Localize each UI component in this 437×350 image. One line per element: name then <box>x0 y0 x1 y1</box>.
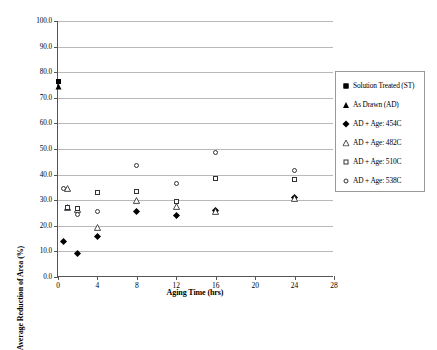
data-point <box>133 188 140 195</box>
marker-square-open-icon <box>134 189 139 194</box>
y-axis-tick-label: 10.0 <box>40 247 52 255</box>
y-axis-tick <box>54 98 58 99</box>
y-axis-tick <box>54 123 58 124</box>
y-axis-tick-label: 80.0 <box>40 68 52 76</box>
x-axis-tick <box>334 276 335 280</box>
y-axis-tick-label: 100.0 <box>36 17 52 25</box>
x-axis-tick <box>137 276 138 280</box>
marker-triangle-open-icon <box>212 208 219 215</box>
legend-item[interactable]: AD + Age: 454C <box>336 114 424 133</box>
data-point <box>60 238 67 245</box>
marker-triangle-open-icon <box>94 224 101 231</box>
gridline <box>58 251 333 252</box>
data-point <box>60 185 67 192</box>
legend-label: Solution Treated (ST) <box>353 81 414 90</box>
y-axis-tick <box>54 226 58 227</box>
x-axis-tick <box>176 276 177 280</box>
x-axis-tick <box>216 276 217 280</box>
legend-marker-circle-open-icon <box>341 176 350 185</box>
data-point <box>173 198 180 205</box>
gridline <box>58 98 333 99</box>
data-point <box>94 208 101 215</box>
marker-diamond-filled-icon <box>94 233 101 240</box>
data-point <box>212 175 219 182</box>
marker-circle-open-icon <box>134 163 139 168</box>
marker-diamond-filled-icon <box>173 212 180 219</box>
y-axis-tick <box>54 21 58 22</box>
data-point <box>212 208 219 215</box>
marker-triangle-open-icon <box>133 197 140 204</box>
marker-circle-open-icon <box>292 168 297 173</box>
y-axis-tick <box>54 149 58 150</box>
x-axis-title: Aging Time (hrs) <box>57 288 333 297</box>
legend-item[interactable]: AD + Age: 482C <box>336 133 424 152</box>
data-point <box>64 204 71 211</box>
legend-label: As Drawn (AD) <box>353 100 399 109</box>
data-point <box>173 180 180 187</box>
gridline <box>58 47 333 48</box>
data-point <box>133 162 140 169</box>
data-point <box>74 211 81 218</box>
legend-item[interactable]: AD + Age: 538C <box>336 171 424 190</box>
legend-item[interactable]: AD + Age: 510C <box>336 152 424 171</box>
data-point <box>291 195 298 202</box>
marker-square-open-icon <box>292 177 297 182</box>
y-axis-tick-label: 20.0 <box>40 222 52 230</box>
x-axis-tick <box>295 276 296 280</box>
data-point <box>133 197 140 204</box>
y-axis-tick-label: 70.0 <box>40 94 52 102</box>
legend-label: AD + Age: 482C <box>353 138 401 147</box>
legend-marker-triangle-open-icon <box>341 138 350 147</box>
y-axis-tick-label: 60.0 <box>40 119 52 127</box>
gridline <box>58 149 333 150</box>
marker-square-open-icon <box>213 176 218 181</box>
y-axis-tick-label: 90.0 <box>40 43 52 51</box>
x-axis-tick <box>58 276 59 280</box>
data-point <box>94 189 101 196</box>
data-point <box>94 233 101 240</box>
marker-circle-open-icon <box>75 212 80 217</box>
gridline <box>58 72 333 73</box>
y-axis-tick <box>54 175 58 176</box>
y-axis-tick <box>54 47 58 48</box>
legend-marker-square-open-icon <box>341 157 350 166</box>
y-axis-tick-label: 40.0 <box>40 171 52 179</box>
marker-diamond-filled-icon <box>60 238 67 245</box>
marker-circle-open-icon <box>213 150 218 155</box>
x-axis-tick <box>255 276 256 280</box>
legend-marker-square-filled-icon <box>341 81 350 90</box>
legend-marker-diamond-filled-icon <box>341 119 350 128</box>
data-point <box>94 224 101 231</box>
data-point <box>173 212 180 219</box>
data-point <box>291 176 298 183</box>
legend-item[interactable]: As Drawn (AD) <box>336 95 424 114</box>
marker-triangle-filled-icon <box>55 83 61 89</box>
gridline <box>58 21 333 22</box>
marker-triangle-open-icon <box>291 195 298 202</box>
data-point <box>133 208 140 215</box>
marker-circle-open-icon <box>61 186 66 191</box>
data-point <box>212 149 219 156</box>
data-point <box>291 167 298 174</box>
y-axis-title: Average Reduction of Area (%) <box>16 246 25 350</box>
legend-label: AD + Age: 538C <box>353 176 401 185</box>
legend-marker-triangle-filled-icon <box>341 100 350 109</box>
gridline <box>58 123 333 124</box>
legend-label: AD + Age: 510C <box>353 157 401 166</box>
marker-circle-open-icon <box>174 181 179 186</box>
marker-diamond-filled-icon <box>74 250 81 257</box>
marker-square-open-icon <box>65 205 70 210</box>
legend-label: AD + Age: 454C <box>353 119 401 128</box>
y-axis-tick <box>54 251 58 252</box>
y-axis-tick <box>54 72 58 73</box>
x-axis-tick <box>97 276 98 280</box>
marker-circle-open-icon <box>95 209 100 214</box>
legend-item[interactable]: Solution Treated (ST) <box>336 76 424 95</box>
y-axis-tick <box>54 200 58 201</box>
y-axis-tick-label: 50.0 <box>40 145 52 153</box>
y-axis-tick-label: 0.0 <box>43 273 52 281</box>
marker-square-open-icon <box>174 199 179 204</box>
marker-square-open-icon <box>95 190 100 195</box>
y-axis-tick-label: 30.0 <box>40 196 52 204</box>
